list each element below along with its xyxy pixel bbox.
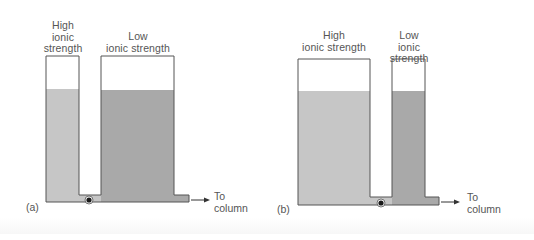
label-line: High xyxy=(296,30,372,42)
panel-a-apparatus xyxy=(46,56,210,204)
label-line: ionic strength xyxy=(381,42,437,65)
panel-b-low-ionic-label: Low ionic strength xyxy=(381,30,437,65)
panel-a-outlet-label: To column xyxy=(214,190,248,214)
panel-b-arrow-icon xyxy=(441,200,460,205)
label-line: Low xyxy=(100,31,176,43)
panel-a-id: (a) xyxy=(26,201,39,213)
label-line: column xyxy=(214,202,248,214)
label-line: ionic strength xyxy=(100,43,176,55)
panel-b-id: (b) xyxy=(277,203,290,215)
panel-a-arrow-icon xyxy=(191,198,210,203)
panel-b-high-ionic-label: High ionic strength xyxy=(296,30,372,53)
panel-b-outlet-pipe xyxy=(425,197,439,205)
panel-a-low-ionic-liquid xyxy=(101,90,174,202)
panel-b-high-ionic-liquid xyxy=(298,91,370,205)
panel-a-outlet-pipe xyxy=(174,195,189,202)
panel-a-valve-icon xyxy=(85,196,93,204)
panel-a-high-ionic-liquid xyxy=(46,89,79,202)
panel-a-low-ionic-label: Low ionic strength xyxy=(100,31,176,54)
panel-b-outlet-label: To column xyxy=(467,191,501,215)
label-line: ionic strength xyxy=(296,42,372,54)
label-line: High xyxy=(38,20,88,32)
label-line: To xyxy=(214,190,248,202)
label-line: column xyxy=(467,203,501,215)
panel-a-high-ionic-label: High ionic strength xyxy=(38,20,88,55)
label-line: Low xyxy=(381,30,437,42)
panel-b-low-ionic-liquid xyxy=(392,91,425,205)
label-line: strength xyxy=(38,43,88,55)
panel-b-valve-icon xyxy=(377,199,385,207)
label-line: To xyxy=(467,191,501,203)
panel-b-apparatus xyxy=(298,59,460,207)
